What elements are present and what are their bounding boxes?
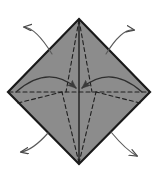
origami-diagram-container — [0, 0, 157, 174]
origami-diagram — [0, 0, 157, 174]
